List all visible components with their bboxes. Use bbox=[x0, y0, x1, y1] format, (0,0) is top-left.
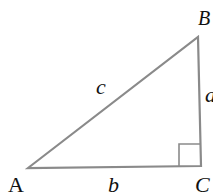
side-label-base: b bbox=[108, 174, 119, 194]
vertex-label-a: A bbox=[8, 174, 24, 194]
right-angle-marker bbox=[179, 144, 200, 166]
triangle-shape bbox=[28, 37, 201, 168]
vertex-label-b: B bbox=[198, 8, 210, 28]
triangle-figure bbox=[0, 0, 213, 194]
vertex-label-c: C bbox=[195, 174, 210, 194]
side-label-vertical: a bbox=[205, 84, 213, 106]
side-label-hypotenuse: c bbox=[96, 76, 106, 98]
